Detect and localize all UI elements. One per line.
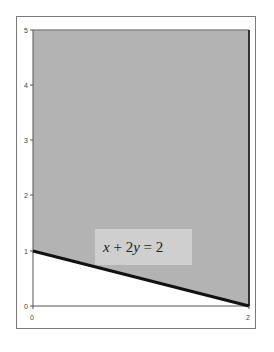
equation-label: x + 2y = 2 (102, 239, 163, 255)
y-tick-label-5: 5 (24, 27, 28, 34)
x-tick-label-2: 2 (246, 314, 250, 321)
y-tick-label-0: 0 (24, 303, 28, 310)
y-tick-label-2: 2 (24, 192, 28, 199)
y-tick-label-3: 3 (24, 137, 28, 144)
y-tick-label-1: 1 (24, 248, 28, 255)
x-tick-label-0: 0 (30, 314, 34, 321)
y-tick-label-4: 4 (24, 82, 28, 89)
chart-canvas: 5 4 3 2 1 0 0 2 x + 2y = 2 (0, 0, 274, 352)
